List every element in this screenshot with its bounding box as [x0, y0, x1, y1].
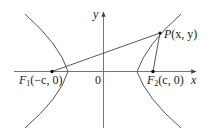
hyperbola-left-branch	[25, 14, 68, 128]
point-p-dot	[158, 31, 161, 34]
x-axis-label: x	[190, 73, 197, 87]
focus2-label: F2(c, 0)	[146, 73, 184, 88]
y-axis-label: y	[92, 7, 99, 21]
hyperbola-diagram: y x 0 F1(−c, 0) F2(c, 0) P(x, y)	[0, 0, 207, 139]
focus1-label: F1(−c, 0)	[18, 73, 62, 88]
origin-label: 0	[95, 73, 101, 87]
segment-f1-p	[52, 33, 160, 72]
point-p-label: P(x, y)	[163, 27, 197, 41]
